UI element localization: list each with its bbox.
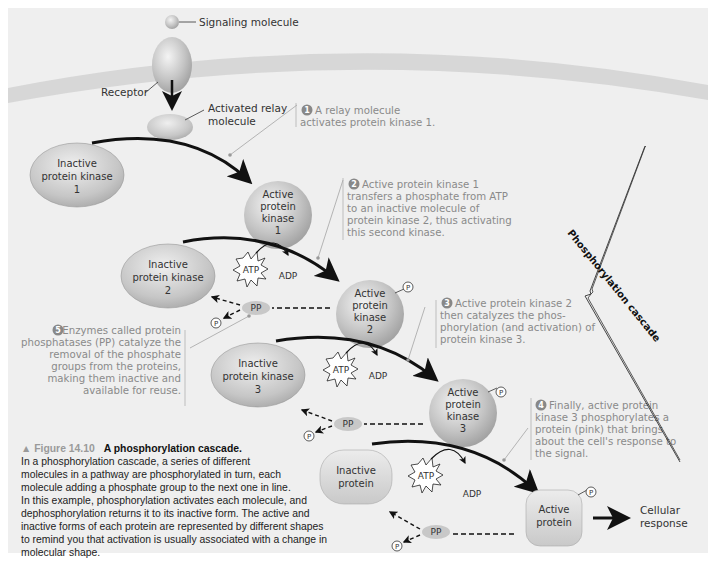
- relay-molecule-icon: [147, 114, 193, 140]
- svg-text:Active: Active: [355, 288, 386, 299]
- step-5-text: Enzymes called protein phosphatases (PP)…: [21, 325, 181, 396]
- signaling-molecule-label: Signaling molecule: [199, 16, 299, 28]
- svg-text:PP: PP: [343, 419, 354, 429]
- svg-text:PP: PP: [431, 527, 442, 537]
- svg-text:protein kinase 3.: protein kinase 3.: [440, 334, 525, 345]
- svg-text:protein kinase: protein kinase: [41, 171, 112, 182]
- svg-text:groups from the proteins,: groups from the proteins,: [51, 361, 181, 372]
- svg-text:P: P: [307, 433, 311, 441]
- svg-text:P: P: [406, 284, 410, 292]
- svg-text:removal of the phosphate: removal of the phosphate: [49, 349, 181, 360]
- svg-text:Active: Active: [448, 387, 479, 398]
- relay-label-2: molecule: [208, 115, 256, 127]
- svg-text:available for reuse.: available for reuse.: [83, 385, 181, 396]
- svg-text:protein kinase: protein kinase: [222, 371, 293, 382]
- svg-text:P: P: [589, 489, 593, 497]
- svg-text:protein (pink) that brings: protein (pink) that brings: [535, 424, 663, 435]
- svg-text:3: 3: [460, 423, 466, 434]
- svg-text:phosphatases (PP) catalyze the: phosphatases (PP) catalyze the: [21, 337, 181, 348]
- svg-text:the signal.: the signal.: [535, 448, 588, 459]
- figure-number: ▲ Figure 14.10: [21, 443, 95, 454]
- svg-text:ATP: ATP: [243, 265, 260, 275]
- svg-text:activates protein kinase 1.: activates protein kinase 1.: [300, 117, 435, 128]
- svg-text:P: P: [214, 320, 218, 328]
- step-2-text: Active protein kinase 1 transfers a phos…: [347, 179, 512, 238]
- step-1-text: A relay molecule: [315, 105, 400, 116]
- svg-text:Active: Active: [263, 189, 294, 200]
- svg-text:then catalyzes the phos-: then catalyzes the phos-: [440, 310, 566, 321]
- svg-text:P: P: [395, 543, 399, 551]
- svg-text:kinase: kinase: [447, 411, 479, 422]
- svg-text:kinase 3 phosphorylates a: kinase 3 phosphorylates a: [535, 412, 669, 423]
- svg-text:Active protein kinase 2: Active protein kinase 2: [455, 298, 572, 309]
- svg-text:this second kinase.: this second kinase.: [347, 227, 445, 238]
- adp-label: ADP: [279, 271, 298, 281]
- svg-text:2: 2: [351, 180, 357, 189]
- cellular-response-label: Cellular: [640, 504, 681, 516]
- svg-text:1: 1: [304, 106, 310, 115]
- svg-text:Inactive: Inactive: [148, 259, 188, 270]
- receptor-label: Receptor: [101, 86, 149, 98]
- step-4-text: Finally, active protein kinase 3 phospho…: [535, 400, 676, 459]
- svg-text:protein: protein: [352, 300, 388, 311]
- svg-text:protein kinase 2, thus activat: protein kinase 2, thus activating: [347, 215, 512, 226]
- svg-text:protein: protein: [445, 399, 481, 410]
- phosphorylation-cascade-figure: Signaling molecule Receptor Activated re…: [8, 8, 708, 553]
- svg-text:protein kinase: protein kinase: [132, 272, 203, 283]
- svg-text:ADP: ADP: [369, 371, 388, 381]
- svg-text:2: 2: [165, 285, 171, 296]
- svg-text:Active: Active: [539, 504, 570, 515]
- svg-text:Active protein kinase 1: Active protein kinase 1: [362, 179, 479, 190]
- svg-text:2: 2: [367, 324, 373, 335]
- svg-text:5: 5: [55, 326, 61, 335]
- step-3-text: Active protein kinase 2 then catalyzes t…: [440, 298, 595, 345]
- relay-label-1: Activated relay: [208, 102, 287, 114]
- svg-text:PP: PP: [251, 303, 262, 313]
- svg-text:to an inactive molecule of: to an inactive molecule of: [347, 203, 480, 214]
- svg-text:protein: protein: [536, 517, 572, 528]
- figure-caption: ▲ Figure 14.10 A phosphorylation cascade…: [21, 442, 331, 559]
- svg-text:ATP: ATP: [418, 471, 435, 481]
- svg-text:P: P: [499, 389, 503, 397]
- svg-text:Inactive: Inactive: [57, 158, 97, 169]
- svg-text:phorylation (and activation) o: phorylation (and activation) of: [440, 322, 595, 333]
- svg-text:4: 4: [538, 401, 544, 410]
- svg-text:1: 1: [275, 225, 281, 236]
- svg-text:3: 3: [255, 384, 261, 395]
- figure-title: A phosphorylation cascade.: [104, 443, 242, 454]
- svg-text:kinase: kinase: [354, 312, 386, 323]
- svg-text:protein: protein: [260, 201, 296, 212]
- svg-text:transfers a phosphate from ATP: transfers a phosphate from ATP: [347, 191, 508, 202]
- svg-text:making them inactive and: making them inactive and: [47, 373, 181, 384]
- svg-text:about the cell's response to: about the cell's response to: [535, 436, 676, 447]
- svg-text:kinase: kinase: [262, 213, 294, 224]
- svg-text:Finally, active protein: Finally, active protein: [549, 400, 658, 411]
- svg-text:ADP: ADP: [463, 489, 482, 499]
- svg-text:Enzymes called protein: Enzymes called protein: [62, 325, 181, 336]
- svg-text:Inactive: Inactive: [238, 358, 278, 369]
- signaling-molecule-icon: [165, 15, 179, 29]
- svg-text:3: 3: [444, 299, 450, 308]
- svg-text:protein: protein: [338, 478, 374, 489]
- svg-text:1: 1: [74, 184, 80, 195]
- svg-text:Inactive: Inactive: [336, 465, 376, 476]
- svg-text:ATP: ATP: [333, 365, 350, 375]
- svg-text:response: response: [640, 517, 688, 529]
